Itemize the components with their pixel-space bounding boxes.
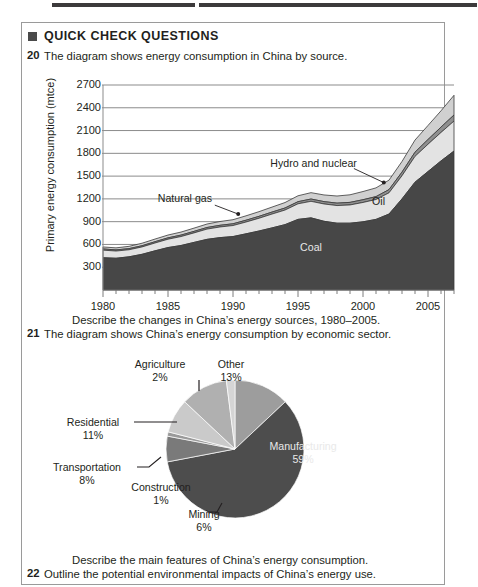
area-chart-y-tick: 300: [55, 260, 101, 272]
pie-label-percent: 59%: [260, 453, 346, 466]
area-chart-y-tick: 1200: [55, 192, 101, 204]
pie-label-residential: Residential11%: [55, 416, 131, 441]
area-chart-y-tick: 600: [55, 237, 101, 249]
quick-check-heading: QUICK CHECK QUESTIONS: [28, 29, 219, 43]
area-chart-y-tick: 900: [55, 215, 101, 227]
area-chart-x-tick: 2000: [343, 300, 383, 312]
area-chart-annotation: Hydro and nuclear: [270, 157, 357, 169]
area-chart-x-tick: 1990: [213, 300, 253, 312]
area-chart-x-tick: 1985: [148, 300, 188, 312]
pie-label-name: Residential: [55, 416, 131, 429]
area-chart-x-tick: 1995: [278, 300, 318, 312]
area-chart-y-tick-column: 270024002100180015001200900600300: [55, 66, 101, 276]
pie-label-construction: Construction1%: [116, 481, 206, 506]
area-chart-y-tick: 2700: [55, 78, 101, 90]
pie-label-percent: 11%: [55, 429, 131, 442]
area-chart-annotation: Coal: [300, 241, 322, 253]
area-chart-x-tick: 1980: [83, 300, 123, 312]
area-chart-y-tick: 1500: [55, 169, 101, 181]
pie-label-other: Other13%: [204, 358, 258, 383]
pie-label-name: Other: [204, 358, 258, 371]
area-chart-plot: CoalOilNatural gasHydro and nuclear: [102, 66, 458, 306]
area-chart-y-tick: 1800: [55, 146, 101, 158]
pie-label-name: Manufacturing: [260, 440, 346, 453]
question-text-20: The diagram shows energy consumption in …: [44, 49, 347, 63]
pie-label-name: Agriculture: [123, 358, 197, 371]
pie-label-name: Transportation: [39, 461, 135, 474]
area-chart-annotation: Oil: [372, 195, 385, 207]
question-text-20-prompt: Describe the changes in China’s energy s…: [72, 313, 380, 327]
area-chart-annotation: Natural gas: [158, 192, 212, 204]
pie-label-name: Mining: [169, 508, 239, 521]
pie-label-percent: 2%: [123, 371, 197, 384]
energy-source-area-chart: Primary energy consumption (mtce) 270024…: [21, 66, 441, 311]
pie-label-percent: 13%: [204, 371, 258, 384]
area-chart-y-tick: 2100: [55, 124, 101, 136]
energy-sector-pie-chart: Manufacturing59%Other13%Agriculture2%Res…: [21, 336, 441, 548]
question-number-20: 20: [27, 49, 40, 61]
pie-label-manufacturing: Manufacturing59%: [260, 440, 346, 465]
pie-label-percent: 1%: [116, 494, 206, 507]
area-chart-y-tick: 2400: [55, 101, 101, 113]
pie-label-percent: 6%: [169, 521, 239, 534]
pie-label-name: Construction: [116, 481, 206, 494]
question-text-22: Outline the potential environmental impa…: [44, 567, 376, 581]
question-text-21-prompt: Describe the main features of China’s en…: [72, 553, 368, 567]
panel-title: QUICK CHECK QUESTIONS: [44, 29, 219, 43]
filled-square-icon: [28, 32, 37, 41]
page-top-rule: [52, 3, 477, 7]
pie-label-mining: Mining6%: [169, 508, 239, 533]
area-chart-x-tick: 2005: [408, 300, 448, 312]
page-top-rule-gap: [195, 3, 199, 7]
pie-label-agriculture: Agriculture2%: [123, 358, 197, 383]
question-number-22: 22: [27, 567, 40, 579]
